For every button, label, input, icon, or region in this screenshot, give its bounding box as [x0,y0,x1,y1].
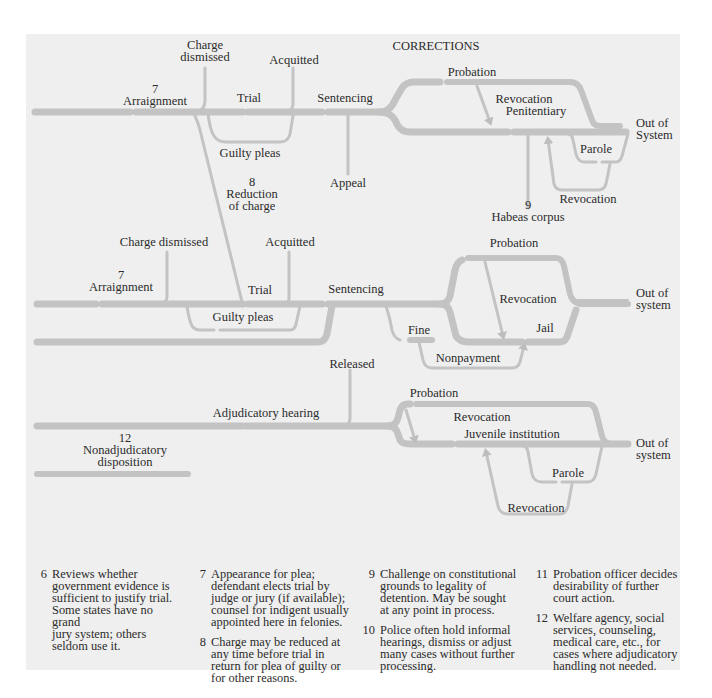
footnote-7: 7 Appearance for plea; defendant elects … [190,568,360,628]
footnote-number: 10 [359,624,375,636]
habeas-corpus-label: Habeas corpus [480,211,576,223]
footnote-number: 7 [190,568,206,580]
footnote-12: 12 Welfare agency, social services, coun… [532,612,682,672]
adjudicatory-hearing-label: Adjudicatory hearing [210,407,322,419]
appeal-label: Appeal [326,177,370,189]
footnote-number: 8 [190,636,206,648]
juv-parole-label: Parole [548,467,588,479]
footnote-number: 11 [532,568,548,580]
felony-parole-revocation-label: Revocation [554,193,622,205]
jail-label: Jail [530,322,560,334]
misd-guilty-pleas-label: Guilty pleas [208,311,278,323]
felony-parole-label: Parole [576,143,616,155]
footnote-8: 8 Charge may be reduced at any time befo… [190,636,360,684]
felony-arraignment-label: Arraignment [122,95,188,107]
reduction-of-charge-label: Reduction of charge [222,188,282,212]
felony-sentencing-label: Sentencing [313,92,377,104]
felony-trial-label: Trial [234,92,264,104]
footnote-text: Reviews whether government evidence is s… [52,568,181,652]
footnote-11: 11 Probation officer decides desirabilit… [532,568,682,604]
juv-probation-label: Probation [404,387,464,399]
footnote-9: 9 Challenge on constitutional grounds to… [359,568,534,616]
footnote-text: Charge may be reduced at any time before… [211,636,360,684]
footnote-number: 9 [359,568,375,580]
misd-acquitted-label: Acquitted [260,236,320,248]
penitentiary-label: Penitentiary [500,105,572,117]
released-label: Released [324,358,380,370]
misd-trial-label: Trial [244,284,276,296]
juvenile-institution-label: Juvenile institution [456,428,568,440]
misd-charge-dismissed-label: Charge dismissed [116,236,212,248]
footnote-text: Probation officer decides desirability o… [553,568,682,604]
felony-probation-label: Probation [442,66,502,78]
footnote-number: 12 [532,612,548,624]
footnote-text: Challenge on constitutional grounds to l… [380,568,534,616]
felony-charge-dismissed-label: Charge dismissed [180,39,230,63]
misd-revocation-label: Revocation [496,293,560,305]
corrections-title: CORRECTIONS [386,40,486,52]
felony-out-of-system-label: Out of System [636,117,673,141]
felony-acquitted-label: Acquitted [262,54,326,66]
footnote-6: 6 Reviews whether government evidence is… [31,568,181,652]
juv-out-of-system-label: Out of system [636,437,671,461]
juv-parole-revocation-label: Revocation [502,502,570,514]
nonpayment-label: Nonpayment [432,352,504,364]
fine-label: Fine [404,324,434,336]
misd-arraignment-label: Arraignment [88,281,154,293]
footnote-text: Appearance for plea; defendant elects tr… [211,568,360,628]
footnote-10: 10 Police often hold informal hearings, … [359,624,534,672]
footnote-text: Police often hold informal hearings, dis… [380,624,534,672]
footnote-number: 6 [31,568,47,580]
nonadjudicatory-disposition-label: Nonadjudicatory disposition [76,444,174,468]
juv-revocation-label: Revocation [450,411,514,423]
misd-sentencing-label: Sentencing [323,283,389,295]
misd-out-of-system-label: Out of system [636,287,671,311]
felony-guilty-pleas-label: Guilty pleas [216,147,284,159]
misd-probation-label: Probation [484,237,544,249]
footnote-text: Welfare agency, social services, counsel… [553,612,682,672]
